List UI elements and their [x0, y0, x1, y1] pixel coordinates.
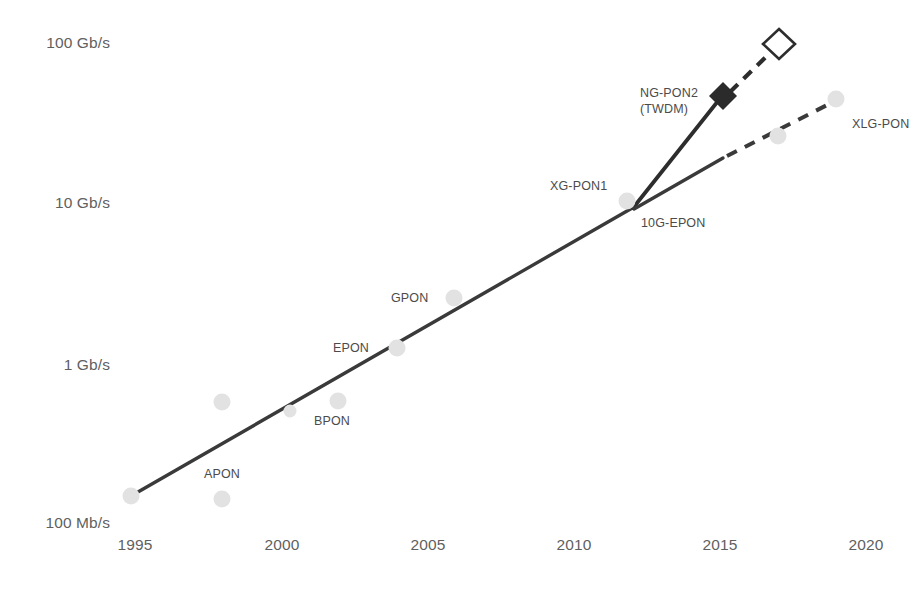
point-label-epon: EPON — [333, 340, 369, 356]
trendline-xlgpon-solid — [634, 158, 723, 209]
data-point-unlabeled-2000 — [284, 405, 297, 418]
y-axis-tick-1gbs: 1 Gb/s — [0, 356, 110, 374]
data-point-xlgpon-mid — [770, 128, 787, 145]
data-point-xlgpon — [828, 91, 845, 108]
x-axis-tick-1995: 1995 — [105, 536, 165, 554]
point-label-ng-pon2: NG-PON2 — [640, 85, 698, 101]
chart-canvas: 100 Gb/s 10 Gb/s 1 Gb/s 100 Mb/s 1995 20… — [0, 0, 919, 592]
y-axis-tick-100gbs: 100 Gb/s — [0, 34, 110, 52]
marker-100g-hollow-diamond — [763, 29, 795, 59]
point-label-xg-pon1: XG-PON1 — [550, 178, 607, 194]
y-axis-tick-10gbs: 10 Gb/s — [0, 194, 110, 212]
chart-plot-area — [0, 0, 919, 592]
x-axis-tick-2015: 2015 — [690, 536, 750, 554]
data-point-unlabeled-1998 — [214, 394, 231, 411]
point-label-10g-epon: 10G-EPON — [641, 215, 705, 231]
data-point-gpon — [446, 290, 463, 307]
x-axis-tick-2010: 2010 — [544, 536, 604, 554]
point-label-xlg-pon: XLG-PON — [852, 116, 909, 132]
point-label-ng-pon2-twdm: (TWDM) — [640, 101, 688, 117]
point-label-bpon: BPON — [314, 413, 350, 429]
trendline-main — [131, 207, 634, 496]
x-axis-tick-2005: 2005 — [398, 536, 458, 554]
point-label-gpon: GPON — [391, 290, 428, 306]
x-axis-tick-2020: 2020 — [836, 536, 896, 554]
data-point-bpon — [330, 393, 347, 410]
data-point-apon — [214, 491, 231, 508]
y-axis-tick-100mbs: 100 Mb/s — [0, 514, 110, 532]
trendline-ngpon2-dashed — [730, 50, 773, 92]
x-axis-tick-2000: 2000 — [252, 536, 312, 554]
data-point-epon — [389, 340, 406, 357]
data-point-xg-pon1 — [619, 193, 636, 210]
point-label-apon: APON — [204, 466, 240, 482]
data-point-1995 — [123, 488, 140, 505]
